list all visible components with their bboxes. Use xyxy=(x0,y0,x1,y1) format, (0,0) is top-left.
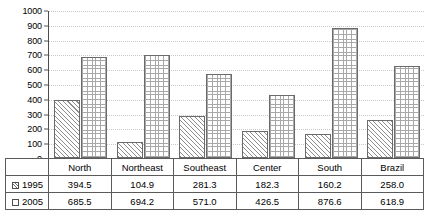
data-table: North Northeast Southeast Center South B… xyxy=(5,158,424,210)
bar-group-center xyxy=(242,11,295,158)
bar-2005-south xyxy=(332,28,358,158)
bar-1995-southeast xyxy=(179,116,205,158)
bar-2005-brazil xyxy=(394,66,420,158)
bar-group-south xyxy=(305,11,358,158)
y-tick-label: 700 xyxy=(27,51,42,60)
legend-item-1995: 1995 xyxy=(6,176,49,193)
category-header-2: Southeast xyxy=(174,159,237,176)
bar-1995-brazil xyxy=(367,120,393,158)
cell-2005-center: 426.5 xyxy=(236,193,299,210)
cell-1995-south: 160.2 xyxy=(299,176,362,193)
cell-1995-center: 182.3 xyxy=(236,176,299,193)
legend-label-2005: 2005 xyxy=(22,196,43,207)
category-header-1: Northeast xyxy=(111,159,174,176)
cell-1995-brazil: 258.0 xyxy=(361,176,424,193)
y-tick-label: 400 xyxy=(27,95,42,104)
bar-1995-northeast xyxy=(117,142,143,158)
bar-2005-center xyxy=(269,95,295,158)
category-header-5: Brazil xyxy=(361,159,424,176)
y-tick-label: 1000 xyxy=(22,7,42,16)
chart-figure: 10009008007006005004003002001000 North N… xyxy=(0,0,430,222)
legend-swatch-2005-icon xyxy=(12,199,19,206)
cell-2005-southeast: 571.0 xyxy=(174,193,237,210)
cell-1995-northeast: 104.9 xyxy=(111,176,174,193)
bar-2005-northeast xyxy=(144,55,170,158)
cell-2005-north: 685.5 xyxy=(49,193,112,210)
bar-group-brazil xyxy=(367,11,420,158)
bars-layer xyxy=(49,11,424,158)
bar-2005-southeast xyxy=(206,74,232,159)
y-tick-label: 100 xyxy=(27,140,42,149)
y-tick-label: 200 xyxy=(27,125,42,134)
legend-swatch-1995-icon xyxy=(12,182,19,189)
y-axis-tick-labels: 10009008007006005004003002001000 xyxy=(0,11,42,159)
y-tick-label: 900 xyxy=(27,21,42,30)
bar-1995-south xyxy=(305,134,331,158)
bar-1995-north xyxy=(54,100,80,158)
legend-label-1995: 1995 xyxy=(22,179,43,190)
bar-1995-center xyxy=(242,131,268,158)
category-header-3: Center xyxy=(236,159,299,176)
cell-1995-north: 394.5 xyxy=(49,176,112,193)
cell-1995-southeast: 281.3 xyxy=(174,176,237,193)
data-table-wrapper: North Northeast Southeast Center South B… xyxy=(5,158,424,210)
table-row: 2005 685.5 694.2 571.0 426.5 876.6 618.9 xyxy=(6,193,424,210)
table-row: 1995 394.5 104.9 281.3 182.3 160.2 258.0 xyxy=(6,176,424,193)
cell-2005-northeast: 694.2 xyxy=(111,193,174,210)
bar-group-north xyxy=(54,11,107,158)
y-tick-label: 300 xyxy=(27,110,42,119)
cell-2005-south: 876.6 xyxy=(299,193,362,210)
y-tick-label: 800 xyxy=(27,36,42,45)
y-tick-label: 600 xyxy=(27,66,42,75)
bar-2005-north xyxy=(81,57,107,158)
category-header-4: South xyxy=(299,159,362,176)
cell-2005-brazil: 618.9 xyxy=(361,193,424,210)
plot-wrapper: 10009008007006005004003002001000 xyxy=(0,0,430,165)
legend-item-2005: 2005 xyxy=(6,193,49,210)
table-corner-cell xyxy=(6,159,49,176)
y-tick-label: 500 xyxy=(27,81,42,90)
category-header-0: North xyxy=(49,159,112,176)
bar-group-southeast xyxy=(179,11,232,158)
bar-group-northeast xyxy=(117,11,170,158)
table-row-categories: North Northeast Southeast Center South B… xyxy=(6,159,424,176)
plot-area xyxy=(48,11,424,159)
